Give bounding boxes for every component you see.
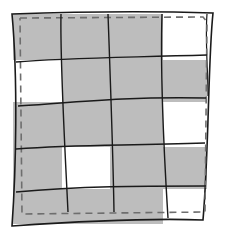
quilt-cell-filled (110, 147, 163, 189)
quilt-cell-filled (163, 147, 207, 189)
quilt-cell-filled (163, 60, 207, 102)
quilt-cell-filled (62, 102, 110, 147)
quilt-cell-filled (62, 189, 110, 224)
quilt-illustration (0, 0, 226, 241)
quilt-cell-filled (110, 60, 163, 102)
quilt-cell-empty (163, 14, 207, 60)
quilt-cells (13, 14, 207, 224)
quilt-cell-empty (163, 102, 207, 147)
quilt-cell-filled (13, 147, 62, 189)
quilt-cell-filled (13, 189, 62, 224)
quilt-cell-filled (62, 60, 110, 102)
quilt-cell-filled (110, 102, 163, 147)
quilt-cell-filled (110, 14, 163, 60)
quilt-cell-empty (62, 147, 110, 189)
quilt-cell-filled (62, 14, 110, 60)
